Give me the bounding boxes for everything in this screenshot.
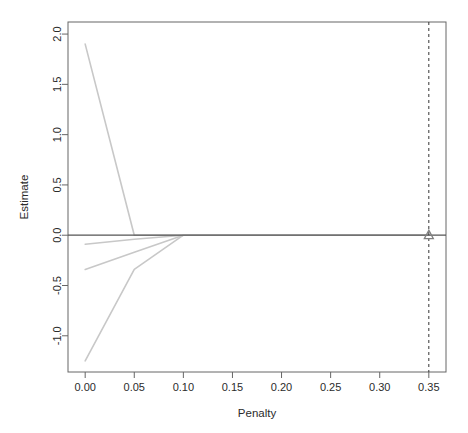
y-axis-tick-label: -0.5 <box>51 276 63 295</box>
y-axis-tick-label: 1.0 <box>51 127 63 142</box>
x-axis-tick-label: 0.05 <box>124 381 145 393</box>
regularization-path-chart: 0.000.050.100.150.200.250.300.35Penalty-… <box>0 0 468 433</box>
x-axis-tick-label: 0.10 <box>173 381 194 393</box>
y-axis-tick-label: 1.5 <box>51 77 63 92</box>
chart-background <box>0 0 468 433</box>
plot-canvas: 0.000.050.100.150.200.250.300.35Penalty-… <box>0 0 468 433</box>
y-axis-title: Estimate <box>18 175 30 220</box>
x-axis-tick-label: 0.15 <box>222 381 243 393</box>
x-axis-tick-label: 0.00 <box>74 381 95 393</box>
x-axis-title: Penalty <box>238 407 277 419</box>
x-axis-tick-label: 0.25 <box>320 381 341 393</box>
y-axis-tick-label: 0.5 <box>51 177 63 192</box>
y-axis-tick-label: 0.0 <box>51 228 63 243</box>
y-axis-tick-label: -1.0 <box>51 326 63 345</box>
x-axis-tick-label: 0.35 <box>418 381 439 393</box>
x-axis-tick-label: 0.30 <box>369 381 390 393</box>
y-axis-tick-label: 2.0 <box>51 26 63 41</box>
x-axis-tick-label: 0.20 <box>271 381 292 393</box>
